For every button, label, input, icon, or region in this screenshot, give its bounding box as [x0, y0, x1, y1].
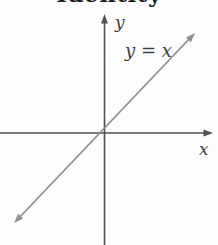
x-axis-label: x — [199, 139, 209, 159]
x-axis-arrowhead-icon — [204, 130, 214, 137]
y-axis-arrowhead-icon — [101, 14, 108, 24]
identity-function-figure: Identity y x y = x — [0, 0, 218, 245]
y-axis-label: y — [114, 12, 125, 32]
line-equation-label: y = x — [124, 40, 172, 61]
graph-canvas: y x y = x — [0, 0, 218, 245]
